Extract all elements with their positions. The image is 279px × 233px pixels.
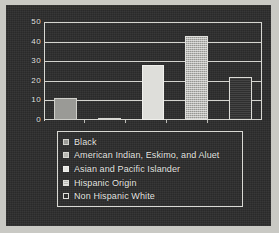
gridline-40: [44, 42, 262, 43]
gridline-50: [44, 22, 262, 23]
y-tick-label-20: 20: [31, 77, 41, 85]
y-axis: 50 40 30 20 10 0: [20, 22, 41, 120]
chart-legend: Black American Indian, Eskimo, and Aluet…: [57, 131, 243, 207]
legend-label: Black: [74, 137, 97, 147]
chart-panel: 50 40 30 20 10 0: [6, 5, 271, 226]
legend-swatch-icon: [63, 166, 69, 172]
plot-area: [44, 22, 262, 120]
chart-screenshot: 50 40 30 20 10 0: [0, 0, 279, 233]
x-tick-2: [125, 120, 126, 123]
legend-item-hispanic-origin: Hispanic Origin: [63, 176, 238, 190]
y-tick-label-0: 0: [36, 116, 41, 124]
legend-swatch-icon: [63, 180, 69, 186]
bar-non-hispanic-white: [229, 77, 252, 120]
bar-hispanic-origin: [185, 36, 208, 120]
y-tick-label-30: 30: [31, 57, 41, 65]
y-tick-label-10: 10: [31, 96, 41, 104]
x-tick-3: [166, 120, 167, 123]
legend-item-non-hispanic-white: Non Hispanic White: [63, 189, 238, 203]
y-tick-label-50: 50: [31, 18, 41, 26]
legend-label: Hispanic Origin: [74, 178, 137, 188]
legend-swatch-icon: [63, 152, 69, 158]
legend-label: Non Hispanic White: [74, 191, 155, 201]
legend-label: Asian and Pacific Islander: [74, 164, 180, 174]
gridline-30: [44, 61, 262, 62]
legend-label: American Indian, Eskimo, and Aluet: [74, 150, 219, 160]
legend-item-asian-pacific-islander: Asian and Pacific Islander: [63, 162, 238, 176]
y-tick-label-40: 40: [31, 38, 41, 46]
x-tick-1: [84, 120, 85, 123]
bar-asian-pacific-islander: [142, 65, 165, 120]
legend-item-black: Black: [63, 135, 238, 149]
bar-american-indian: [98, 118, 121, 120]
legend-swatch-icon: [63, 139, 69, 145]
legend-item-american-indian: American Indian, Eskimo, and Aluet: [63, 149, 238, 163]
x-tick-4: [207, 120, 208, 123]
legend-swatch-icon: [63, 193, 69, 199]
bar-black: [54, 98, 77, 120]
